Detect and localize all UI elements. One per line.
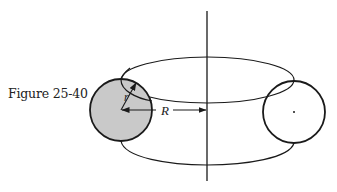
toroid-diagram: r R xyxy=(0,0,337,192)
right-center-dot xyxy=(293,111,295,113)
large-radius-label: R xyxy=(160,103,169,118)
small-radius-label: r xyxy=(124,90,129,104)
